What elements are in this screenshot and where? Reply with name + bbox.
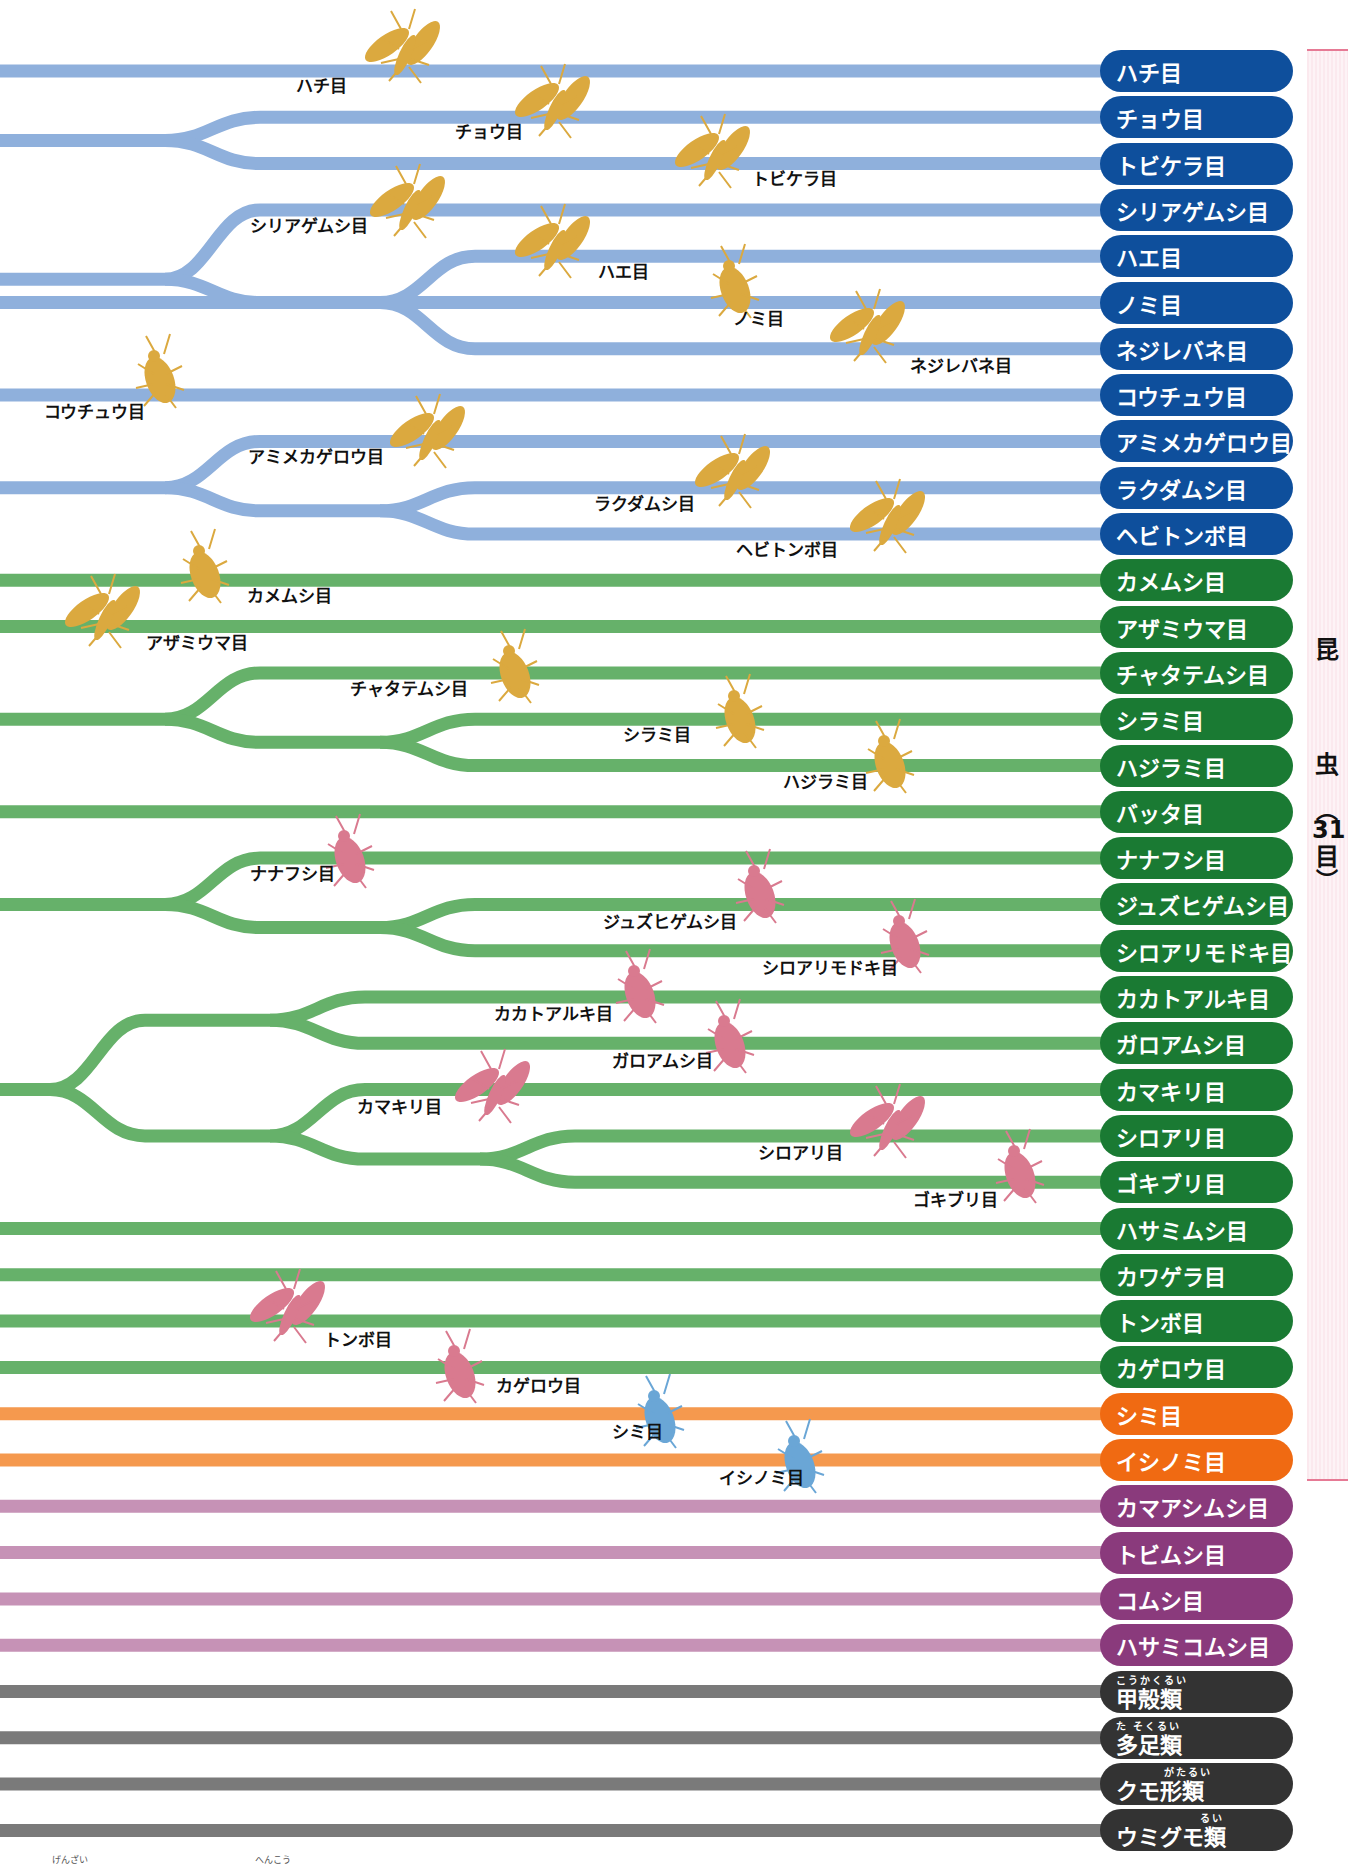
pill-label: トンボ目 <box>1116 1305 1204 1337</box>
pill-label: ハサミコムシ目 <box>1116 1629 1270 1661</box>
order-pill: トビムシ目 <box>1100 1532 1293 1574</box>
order-pill: ラクダムシ目 <box>1100 467 1293 509</box>
stinkbug-silhouette-icon <box>181 529 229 603</box>
pill-ruby: がたるい <box>1164 1764 1212 1779</box>
order-pill: カメムシ目 <box>1100 559 1293 601</box>
order-pill: ジュズヒゲムシ目 <box>1100 883 1293 925</box>
pill-label: チャタテムシ目 <box>1116 657 1269 689</box>
tree-branch <box>165 210 260 279</box>
pill-label: バッタ目 <box>1116 796 1204 828</box>
pill-label: ゴキブリ目 <box>1116 1166 1226 1198</box>
order-label: ジュズヒゲムシ目 <box>603 908 737 933</box>
pill-label: ジュズヒゲムシ目 <box>1116 888 1289 920</box>
tree-branch <box>50 1020 145 1089</box>
order-pill: ノミ目 <box>1100 282 1293 324</box>
order-pill: アミメカゲロウ目 <box>1100 420 1293 462</box>
order-pill: ハチ目 <box>1100 50 1293 92</box>
order-label: カマキリ目 <box>357 1093 442 1118</box>
order-label: ヘビトンボ目 <box>736 536 838 561</box>
order-pill: ゴキブリ目 <box>1100 1161 1293 1203</box>
pill-ruby: た そくるい <box>1116 1718 1181 1733</box>
order-label: シラミ目 <box>623 721 691 746</box>
order-pill: シミ目 <box>1100 1393 1293 1435</box>
heelwalker-silhouette-icon <box>616 949 664 1023</box>
tree-branch <box>380 256 475 302</box>
order-label: ネジレバネ目 <box>910 352 1012 377</box>
order-pill: シロアリモドキ目 <box>1100 930 1293 972</box>
order-pill: ヘビトンボ目 <box>1100 513 1293 555</box>
footer-furigana-left: げんざい <box>52 1853 88 1866</box>
order-pill: チャタテムシ目 <box>1100 652 1293 694</box>
order-label: ハエ目 <box>598 258 649 283</box>
order-label: ゴキブリ目 <box>913 1186 998 1211</box>
tree-branch <box>50 1090 145 1136</box>
pill-label: アミメカゲロウ目 <box>1116 425 1292 457</box>
pill-label: カメムシ目 <box>1116 564 1226 596</box>
order-label: トビケラ目 <box>752 165 837 190</box>
pill-label: ネジレバネ目 <box>1116 333 1248 365</box>
order-pill: るいウミグモ類 <box>1100 1809 1293 1851</box>
order-pill: カワゲラ目 <box>1100 1254 1293 1296</box>
order-pill: シリアゲムシ目 <box>1100 189 1293 231</box>
order-label: シロアリモドキ目 <box>762 954 898 979</box>
order-label: シミ目 <box>612 1418 663 1443</box>
order-pill: ハサミコムシ目 <box>1100 1624 1293 1666</box>
order-label: チャタテムシ目 <box>350 675 468 700</box>
order-label: ラクダムシ目 <box>594 490 695 515</box>
tree-branch <box>165 904 260 927</box>
pill-label: ハエ目 <box>1116 240 1182 272</box>
order-pill: トンボ目 <box>1100 1300 1293 1342</box>
pill-label: シラミ目 <box>1116 703 1204 735</box>
order-pill: バッタ目 <box>1100 791 1293 833</box>
order-label: カカトアルキ目 <box>494 1000 613 1025</box>
order-label: チョウ目 <box>455 118 523 143</box>
order-pill: シロアリ目 <box>1100 1115 1293 1157</box>
order-pill: コムシ目 <box>1100 1578 1293 1620</box>
footer-furigana-right: へんこう <box>255 1853 291 1866</box>
order-label: アザミウマ目 <box>146 629 248 654</box>
pill-label: トビケラ目 <box>1116 148 1226 180</box>
tree-branch <box>165 858 260 904</box>
order-pill: カマアシムシ目 <box>1100 1485 1293 1527</box>
pill-label: ガロアムシ目 <box>1116 1027 1246 1059</box>
order-pill: コウチュウ目 <box>1100 374 1293 416</box>
pill-label: シロアリモドキ目 <box>1116 935 1292 967</box>
pill-label: カカトアルキ目 <box>1116 981 1270 1013</box>
pill-label: アザミウマ目 <box>1116 611 1248 643</box>
order-label: ハジラミ目 <box>783 768 868 793</box>
louse-silhouette-icon <box>716 674 764 748</box>
order-label: イシノミ目 <box>719 1464 804 1489</box>
tree-branch <box>380 303 475 349</box>
order-pill: チョウ目 <box>1100 96 1293 138</box>
bracket-char-1: 昆 <box>1312 630 1342 665</box>
pill-label: ヘビトンボ目 <box>1116 518 1248 550</box>
order-pill: た そくるい多足類 <box>1100 1717 1293 1759</box>
order-label: ハチ目 <box>296 72 347 97</box>
scorpionfly-silhouette-icon <box>365 164 451 238</box>
order-pill: イシノミ目 <box>1100 1439 1293 1481</box>
pill-label: トビムシ目 <box>1116 1537 1226 1569</box>
tree-branch <box>165 673 260 719</box>
order-pill: シラミ目 <box>1100 698 1293 740</box>
order-pill: がたるいクモ形類 <box>1100 1763 1293 1805</box>
tree-branch <box>270 1136 365 1159</box>
pill-label: シリアゲムシ目 <box>1116 194 1269 226</box>
tree-branch <box>380 511 475 534</box>
tree-branch <box>165 719 260 742</box>
order-label: トンボ目 <box>324 1326 392 1351</box>
order-label: アミメカゲロウ目 <box>248 443 384 468</box>
pill-label: ハジラミ目 <box>1116 750 1226 782</box>
order-pill: カカトアルキ目 <box>1100 976 1293 1018</box>
pill-label: チョウ目 <box>1116 101 1204 133</box>
order-label: コウチュウ目 <box>44 398 145 423</box>
moth-silhouette-icon <box>670 114 756 188</box>
order-label: カゲロウ目 <box>496 1372 581 1397</box>
order-pill: こうかくるい甲殻類 <box>1100 1671 1293 1713</box>
order-label: カメムシ目 <box>247 582 332 607</box>
order-label: ナナフシ目 <box>250 860 335 885</box>
pill-label: シミ目 <box>1116 1398 1182 1430</box>
bracket-count: 31 <box>1312 818 1342 842</box>
tree-branch <box>165 488 260 511</box>
order-label: ガロアムシ目 <box>612 1047 713 1072</box>
tree-branch <box>380 742 475 765</box>
